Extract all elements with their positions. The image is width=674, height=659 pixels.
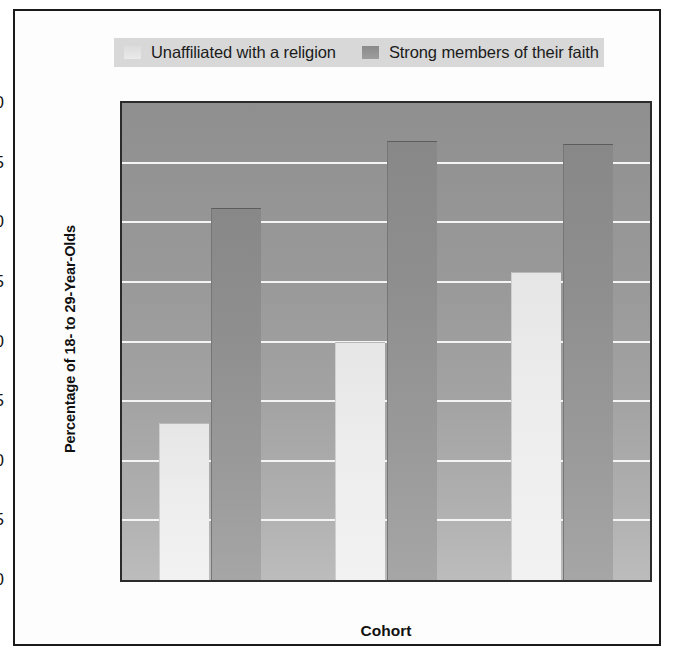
legend-entry-strong-members: Strong members of their faith (362, 43, 599, 62)
bar-2000s-strong-members (563, 144, 613, 580)
y-tick-10: 10 (0, 451, 4, 471)
bar-2000s-unaffiliated (511, 272, 561, 580)
y-tick-5: 5 (0, 510, 4, 530)
legend-entry-unaffiliated: Unaffiliated with a religion (124, 43, 336, 62)
y-tick-15: 15 (0, 391, 4, 411)
figure-frame: Unaffiliated with a religion Strong memb… (13, 9, 661, 646)
y-axis-title: Percentage of 18- to 29-Year-Olds (62, 174, 78, 504)
bar-1970s-unaffiliated (159, 423, 209, 580)
x-axis-title: Cohort (120, 622, 652, 640)
bar-1970s-strong-members (211, 208, 261, 580)
y-tick-35: 35 (0, 153, 4, 173)
legend-label-strong-members: Strong members of their faith (389, 43, 599, 62)
legend-label-unaffiliated: Unaffiliated with a religion (151, 43, 336, 62)
y-tick-40: 40 (0, 93, 4, 113)
bar-1990s-unaffiliated (335, 342, 385, 581)
y-tick-20: 20 (0, 332, 4, 352)
y-tick-0: 0 (0, 570, 4, 590)
bar-1990s-strong-members (387, 141, 437, 580)
legend-swatch-unaffiliated (124, 46, 141, 59)
y-tick-25: 25 (0, 272, 4, 292)
legend-swatch-strong-members (362, 46, 379, 59)
plot-region: 0510152025303540 1970s1990s2000s (120, 101, 652, 582)
y-tick-30: 30 (0, 212, 4, 232)
plot-area (120, 101, 652, 582)
chart-legend: Unaffiliated with a religion Strong memb… (114, 38, 604, 67)
